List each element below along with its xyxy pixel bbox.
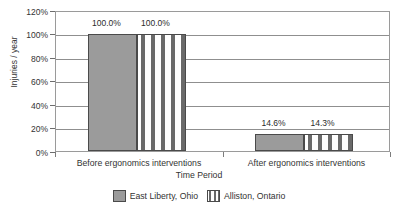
y-tick-label-0: 0% — [0, 148, 48, 158]
y-tick-label-40: 40% — [0, 101, 48, 111]
bar-alliston-after — [304, 134, 353, 151]
y-tick-label-120: 120% — [0, 7, 48, 17]
x-axis-divider-middle — [223, 152, 224, 157]
plot-area — [55, 11, 390, 152]
legend-swatch-solid-icon — [113, 190, 126, 202]
legend-label-alliston: Alliston, Ontario — [224, 191, 285, 201]
legend-swatch-striped-icon — [207, 190, 220, 202]
bar-alliston-before — [137, 34, 186, 152]
data-label-alliston-after: 14.3% — [283, 118, 362, 128]
y-tick-label-80: 80% — [0, 54, 48, 64]
legend-item-east-liberty: East Liberty, Ohio — [113, 190, 198, 202]
y-tick-label-20: 20% — [0, 124, 48, 134]
bar-chart: Injuries / year 120% 100% 80% 60% 40% 20… — [0, 0, 398, 216]
x-axis-divider-left — [55, 152, 56, 157]
data-label-alliston-before: 100.0% — [116, 18, 195, 28]
x-axis-divider-right — [390, 152, 391, 157]
bar-east-liberty-before — [88, 34, 137, 152]
legend-label-east-liberty: East Liberty, Ohio — [130, 191, 198, 201]
x-category-label-before: Before ergonomics interventions — [55, 158, 223, 168]
y-tick-label-60: 60% — [0, 77, 48, 87]
legend-item-alliston: Alliston, Ontario — [207, 190, 285, 202]
bar-east-liberty-after — [255, 134, 304, 151]
x-category-label-after: After ergonomics interventions — [223, 158, 390, 168]
y-tick-label-100: 100% — [0, 30, 48, 40]
legend: East Liberty, Ohio Alliston, Ontario — [0, 190, 398, 202]
x-axis-title: Time Period — [0, 170, 398, 180]
